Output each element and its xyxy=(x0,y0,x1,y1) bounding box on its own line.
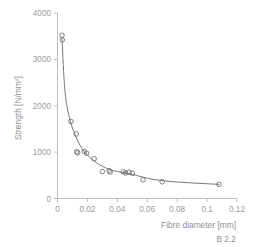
x-axis-title: Fibre diameter [mm] xyxy=(161,220,236,230)
data-point-marker xyxy=(60,33,65,38)
plot-axes xyxy=(58,13,238,199)
figure-caption: B 2.2 xyxy=(216,234,236,244)
fit-curve-path xyxy=(62,38,219,185)
x-tick-label: 0.04 xyxy=(109,205,125,214)
data-point-marker xyxy=(141,177,146,182)
x-axis-ticks: 00.020.040.060.080.10.12 xyxy=(55,199,245,214)
data-point-markers xyxy=(60,33,222,187)
x-tick-label: 0.12 xyxy=(229,205,245,214)
x-tick-label: 0.1 xyxy=(201,205,213,214)
y-axis-ticks: 01000200030004000 xyxy=(33,9,58,204)
x-tick-label: 0 xyxy=(55,205,60,214)
data-point-marker xyxy=(108,170,113,175)
y-tick-label: 3000 xyxy=(33,55,52,64)
data-point-marker xyxy=(100,169,105,174)
x-tick-label: 0.02 xyxy=(79,205,95,214)
y-tick-label: 0 xyxy=(46,195,51,204)
data-point-marker xyxy=(75,151,80,156)
x-tick-label: 0.08 xyxy=(169,205,185,214)
y-tick-label: 2000 xyxy=(33,102,52,111)
y-tick-label: 4000 xyxy=(33,9,52,18)
y-axis-title: Strength [N/mm²] xyxy=(13,76,23,140)
y-tick-label: 1000 xyxy=(33,148,52,157)
fibre-strength-chart: 01000200030004000 00.020.040.060.080.10.… xyxy=(0,0,261,247)
data-series xyxy=(60,33,222,187)
data-point-marker xyxy=(92,156,97,161)
x-tick-label: 0.06 xyxy=(139,205,155,214)
